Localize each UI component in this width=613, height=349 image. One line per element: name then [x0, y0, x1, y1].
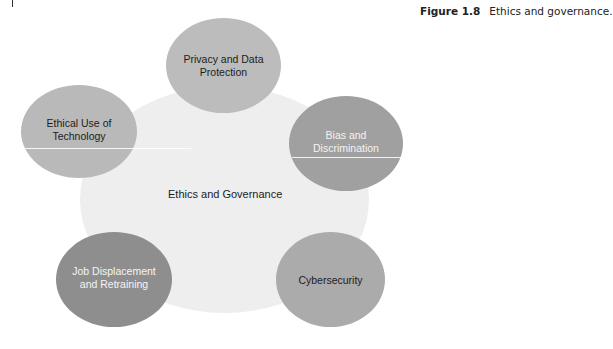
node-privacy-data-protection: Privacy and Data Protection	[166, 18, 281, 113]
center-node-label: Ethics and Governance	[168, 188, 282, 201]
node-label-line: Job Displacement	[72, 265, 155, 278]
node-ethical-use-technology: Ethical Use of Technology	[21, 85, 137, 178]
page-margin-marker	[12, 0, 13, 7]
node-label: Bias and Discrimination	[313, 129, 379, 155]
scan-artifact-line	[292, 157, 402, 158]
node-cybersecurity: Cybersecurity	[276, 232, 385, 327]
node-bias-discrimination: Bias and Discrimination	[289, 96, 403, 191]
figure-caption-text: Ethics and governance.	[489, 5, 612, 17]
node-label: Privacy and Data Protection	[184, 53, 264, 79]
node-label-line: Cybersecurity	[298, 274, 362, 287]
node-label: Job Displacement and Retraining	[72, 265, 155, 291]
node-label-line: Privacy and Data	[184, 53, 264, 66]
node-label-line: Bias and	[313, 129, 379, 142]
node-label: Cybersecurity	[298, 274, 362, 287]
node-job-displacement-retraining: Job Displacement and Retraining	[56, 232, 172, 327]
node-label-line: Discrimination	[313, 142, 379, 155]
node-label-line: Ethical Use of	[47, 117, 112, 130]
scan-artifact-line	[21, 148, 191, 149]
node-label-line: Protection	[184, 66, 264, 79]
node-label: Ethical Use of Technology	[47, 117, 112, 143]
node-label-line: Technology	[47, 130, 112, 143]
node-label-line: and Retraining	[72, 278, 155, 291]
figure-caption: Figure 1.8Ethics and governance.	[420, 5, 613, 17]
figure-number: Figure 1.8	[420, 5, 480, 17]
